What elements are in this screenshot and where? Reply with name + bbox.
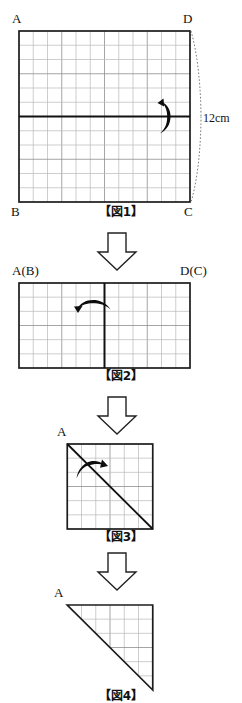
- fig4-drawing: [0, 578, 242, 700]
- figure-3: A 【図3】: [0, 418, 242, 546]
- fig3-caption: 【図3】: [0, 531, 242, 543]
- fig1-drawing: [0, 0, 242, 228]
- fig1-caption: 【図1】: [0, 206, 242, 218]
- fig2-caption: 【図2】: [0, 370, 242, 382]
- figure-1: A D B C 12cm: [0, 0, 242, 228]
- figure-4: A 【図4】: [0, 578, 242, 700]
- fig1-dimension-brace: [191, 31, 201, 202]
- figure-2: A(B) D(C): [0, 262, 242, 390]
- fig4-caption: 【図4】: [0, 690, 242, 702]
- fig3-drawing: [0, 418, 242, 546]
